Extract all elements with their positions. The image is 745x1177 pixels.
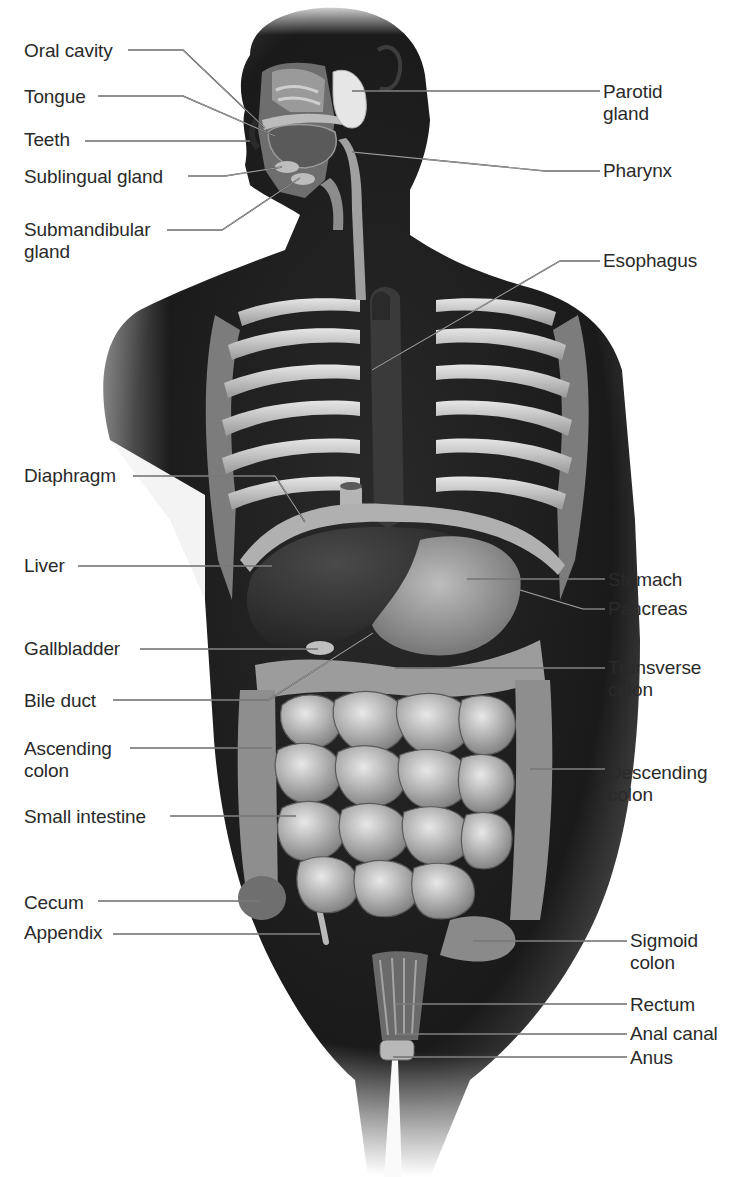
label-stomach: Stomach — [608, 569, 682, 591]
label-bile-duct: Bile duct — [24, 690, 96, 712]
label-anal-canal: Anal canal — [630, 1023, 718, 1045]
label-oral-cavity: Oral cavity — [24, 40, 113, 62]
digestive-system-diagram: Oral cavityTongueTeethSublingual glandSu… — [0, 0, 745, 1177]
label-tongue: Tongue — [24, 86, 86, 108]
label-gallbladder: Gallbladder — [24, 638, 120, 660]
label-ascending-colon: Ascending colon — [24, 738, 112, 782]
label-parotid-gland: Parotid gland — [603, 81, 663, 125]
label-sublingual-gland: Sublingual gland — [24, 166, 163, 188]
label-sigmoid-colon: Sigmoid colon — [630, 930, 698, 974]
label-submandibular-gland: Submandibular gland — [24, 219, 151, 263]
label-rectum: Rectum — [630, 994, 695, 1016]
label-liver: Liver — [24, 555, 65, 577]
label-pharynx: Pharynx — [603, 160, 672, 182]
label-pancreas: Pancreas — [608, 598, 687, 620]
label-descending-colon: Descending colon — [608, 762, 707, 806]
label-anus: Anus — [630, 1047, 673, 1069]
label-diaphragm: Diaphragm — [24, 465, 116, 487]
label-cecum: Cecum — [24, 892, 84, 914]
label-esophagus: Esophagus — [603, 250, 697, 272]
label-teeth: Teeth — [24, 129, 70, 151]
label-appendix: Appendix — [24, 922, 102, 944]
label-small-intestine: Small intestine — [24, 806, 146, 828]
label-transverse-colon: Transverse colon — [608, 657, 701, 701]
